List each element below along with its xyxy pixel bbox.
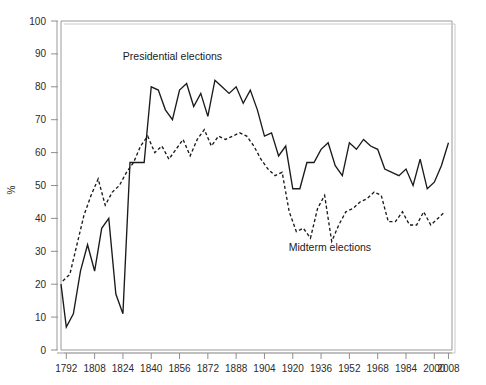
x-tick-label: 1872 bbox=[197, 363, 220, 374]
y-axis-ticks: 0102030405060708090100 bbox=[29, 16, 58, 356]
y-tick-label: 100 bbox=[29, 16, 46, 27]
x-tick-label: 1856 bbox=[168, 363, 191, 374]
y-tick-label: 0 bbox=[40, 345, 46, 356]
x-tick-label: 2008 bbox=[437, 363, 460, 374]
y-axis-title: % bbox=[6, 185, 17, 194]
x-tick-label: 1952 bbox=[338, 363, 361, 374]
series-annotation-label: Midterm elections bbox=[289, 241, 371, 253]
x-tick-label: 1984 bbox=[395, 363, 418, 374]
series-annotation-label: Presidential elections bbox=[123, 50, 222, 62]
x-tick-label: 1936 bbox=[310, 363, 333, 374]
y-tick-label: 40 bbox=[35, 213, 47, 224]
x-axis-ticks: 1792180818241840185618721888190419201936… bbox=[55, 353, 460, 374]
x-tick-label: 1808 bbox=[83, 363, 106, 374]
y-tick-label: 70 bbox=[35, 114, 47, 125]
y-tick-label: 90 bbox=[35, 48, 47, 59]
x-tick-label: 1888 bbox=[225, 363, 248, 374]
plot-frame bbox=[57, 21, 455, 353]
x-tick-label: 1792 bbox=[55, 363, 78, 374]
y-tick-label: 30 bbox=[35, 246, 47, 257]
x-tick-label: 1968 bbox=[367, 363, 390, 374]
turnout-chart: 0102030405060708090100 17921808182418401… bbox=[0, 0, 486, 385]
y-tick-label: 10 bbox=[35, 312, 47, 323]
x-tick-label: 1920 bbox=[282, 363, 305, 374]
y-tick-label: 80 bbox=[35, 81, 47, 92]
x-tick-label: 1904 bbox=[253, 363, 276, 374]
y-tick-label: 50 bbox=[35, 180, 47, 191]
chart-canvas: 0102030405060708090100 17921808182418401… bbox=[0, 0, 486, 385]
plot-background bbox=[61, 21, 452, 350]
y-tick-label: 60 bbox=[35, 147, 47, 158]
x-tick-label: 1824 bbox=[112, 363, 135, 374]
x-tick-label: 1840 bbox=[140, 363, 163, 374]
y-tick-label: 20 bbox=[35, 279, 47, 290]
